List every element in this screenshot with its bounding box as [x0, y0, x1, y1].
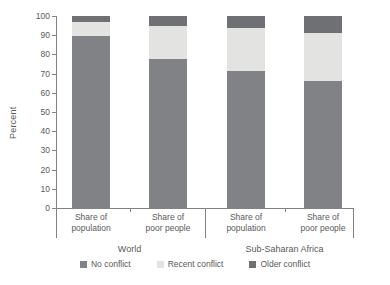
y-axis-tick-label: 20 — [41, 165, 50, 174]
legend-item[interactable]: No conflict — [80, 259, 131, 269]
category-label-line: poor people — [275, 223, 371, 234]
bar-segment[interactable] — [149, 26, 187, 60]
y-axis-tick-label: 0 — [45, 204, 50, 213]
legend-swatch-icon — [80, 261, 87, 268]
category-label-line: Share of — [275, 212, 371, 223]
y-axis-tick — [52, 54, 56, 55]
category-separator-tick — [285, 208, 286, 212]
plot-area: 0102030405060708090100 Share ofpopulatio… — [56, 16, 354, 208]
legend-label: No conflict — [91, 259, 131, 269]
legend-item[interactable]: Older conflict — [249, 259, 310, 269]
y-axis-tick — [52, 150, 56, 151]
y-axis-tick-label: 50 — [41, 108, 50, 117]
group-separator — [56, 208, 57, 238]
y-axis-tick-label: 10 — [41, 185, 50, 194]
y-axis-tick — [52, 93, 56, 94]
bar-segment[interactable] — [227, 71, 265, 208]
bar-stack[interactable] — [72, 16, 110, 208]
y-axis-tick — [52, 74, 56, 75]
y-axis-tick-label: 100 — [36, 12, 50, 21]
bar-segment[interactable] — [149, 59, 187, 208]
y-axis-tick-label: 60 — [41, 89, 50, 98]
chart-legend: No conflictRecent conflictOlder conflict — [0, 259, 390, 269]
bar-stack[interactable] — [149, 16, 187, 208]
y-axis-tick-label: 80 — [41, 50, 50, 59]
bar-segment[interactable] — [304, 16, 342, 33]
bar-segment[interactable] — [304, 33, 342, 81]
group-separator — [353, 208, 354, 238]
category-separator-tick — [130, 208, 131, 212]
y-axis-tick — [52, 189, 56, 190]
y-axis-tick-label: 90 — [41, 31, 50, 40]
category-label: Share ofpoor people — [275, 212, 371, 234]
y-axis-tick — [52, 131, 56, 132]
bar-segment[interactable] — [227, 16, 265, 28]
group-label: Sub-Saharan Africa — [210, 244, 360, 254]
bar-stack[interactable] — [304, 16, 342, 208]
bar-segment[interactable] — [227, 28, 265, 71]
group-separator — [205, 208, 206, 238]
group-label: World — [55, 244, 205, 254]
bar-stack[interactable] — [227, 16, 265, 208]
bar-segment[interactable] — [72, 36, 110, 208]
bar-segment[interactable] — [72, 22, 110, 36]
legend-item[interactable]: Recent conflict — [157, 259, 224, 269]
legend-label: Older conflict — [260, 259, 310, 269]
y-axis-title: Percent — [6, 88, 20, 158]
y-axis-tick — [52, 16, 56, 17]
bar-segment[interactable] — [149, 16, 187, 26]
legend-swatch-icon — [249, 261, 256, 268]
y-axis-tick — [52, 170, 56, 171]
y-axis-tick-label: 30 — [41, 146, 50, 155]
y-axis-tick — [52, 35, 56, 36]
y-axis-tick-label: 70 — [41, 69, 50, 78]
stacked-bar-chart: Percent 0102030405060708090100 Share ofp… — [0, 0, 390, 285]
legend-label: Recent conflict — [168, 259, 224, 269]
bar-segment[interactable] — [304, 81, 342, 208]
legend-swatch-icon — [157, 261, 164, 268]
y-axis-tick — [52, 112, 56, 113]
y-axis-line — [56, 16, 57, 208]
y-axis-tick-label: 40 — [41, 127, 50, 136]
